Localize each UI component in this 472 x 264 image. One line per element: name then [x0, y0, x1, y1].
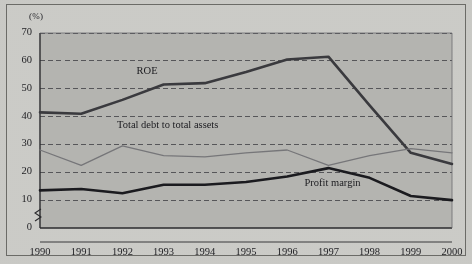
x-tick-label: 1997	[305, 246, 351, 257]
x-tick-label: 1993	[141, 246, 187, 257]
figure-page: (%) 010203040506070 19901991199219931994…	[0, 0, 472, 264]
line-chart-svg	[0, 0, 472, 264]
series-label-roe: ROE	[137, 65, 158, 76]
y-axis-unit-label: (%)	[29, 11, 43, 21]
y-tick-label: 10	[8, 193, 32, 204]
x-tick-label: 1996	[264, 246, 310, 257]
x-tick-label: 1995	[223, 246, 269, 257]
y-tick-label: 30	[8, 137, 32, 148]
series-label-profit-margin: Profit margin	[304, 177, 360, 188]
x-tick-label: 1990	[17, 246, 63, 257]
chart-canvas	[0, 0, 472, 264]
y-tick-label: 70	[8, 26, 32, 37]
x-tick-label: 2000	[429, 246, 472, 257]
x-tick-label: 1991	[58, 246, 104, 257]
series-label-total-debt-to-total-assets: Total debt to total assets	[117, 119, 218, 130]
y-tick-label: 0	[8, 221, 32, 232]
y-tick-label: 60	[8, 54, 32, 65]
y-tick-label: 40	[8, 110, 32, 121]
x-tick-label: 1992	[99, 246, 145, 257]
x-tick-label: 1998	[347, 246, 393, 257]
y-tick-label: 20	[8, 165, 32, 176]
x-tick-label: 1999	[388, 246, 434, 257]
x-tick-label: 1994	[182, 246, 228, 257]
y-tick-label: 50	[8, 82, 32, 93]
